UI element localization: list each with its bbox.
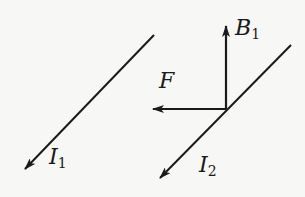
magnetic-field-label: B1 [235,17,260,41]
wire-1 [25,35,154,169]
current-1-label: I1 [49,146,67,170]
current-2-symbol: I [199,152,208,177]
current-1-symbol: I [49,144,58,169]
magnetic-field-symbol: B [235,15,251,40]
current-2-subscript: 2 [208,163,217,179]
current-2-label: I2 [199,154,217,178]
force-symbol: F [159,68,174,93]
force-label: F [159,70,174,92]
wire-1-line [25,35,154,169]
magnetic-field-subscript: 1 [251,26,260,42]
current-1-subscript: 1 [58,155,67,171]
diagram-canvas: I1 I2 B1 F [0,0,305,197]
